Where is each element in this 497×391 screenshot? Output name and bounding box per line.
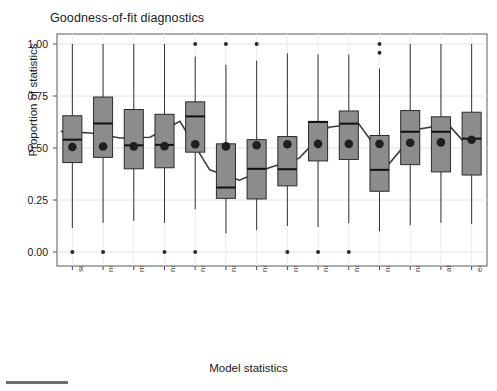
outlier-point (255, 42, 259, 46)
box-iqr (155, 114, 174, 167)
mean-point (283, 140, 292, 149)
chart-figure: Goodness-of-fit diagnostics Proportion o… (0, 0, 497, 391)
mean-point (160, 142, 169, 151)
outlier-point (378, 51, 382, 55)
mean-point (314, 140, 323, 149)
mean-point (191, 140, 200, 149)
mean-point (437, 138, 446, 147)
mean-point (344, 140, 353, 149)
outlier-point (193, 250, 197, 254)
outlier-point (193, 42, 197, 46)
footer-rule (6, 381, 68, 384)
outlier-point (347, 250, 351, 254)
outlier-point (101, 250, 105, 254)
outlier-point (163, 250, 167, 254)
plot-panel (0, 0, 497, 391)
mean-point (406, 139, 415, 148)
box-iqr (216, 144, 235, 198)
outlier-point (378, 42, 382, 46)
mean-point (252, 141, 261, 150)
mean-point (99, 142, 108, 151)
mean-point (68, 143, 77, 152)
panel-border (57, 34, 487, 266)
mean-point (467, 135, 476, 144)
outlier-point (70, 250, 74, 254)
outlier-point (316, 250, 320, 254)
outlier-point (224, 42, 228, 46)
box-iqr (339, 111, 358, 159)
mean-point (222, 142, 231, 151)
outlier-point (285, 250, 289, 254)
mean-point (129, 142, 138, 151)
box-iqr (124, 110, 143, 169)
box-iqr (401, 111, 420, 165)
mean-point (375, 140, 384, 149)
